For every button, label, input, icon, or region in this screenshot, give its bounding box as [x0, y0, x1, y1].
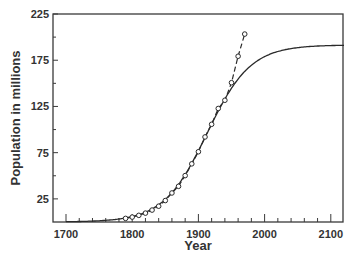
data-point-marker — [130, 215, 135, 220]
axis-ticks — [53, 14, 331, 222]
data-point-marker — [223, 98, 228, 103]
data-point-marker — [163, 198, 168, 203]
data-point-marker — [209, 122, 214, 127]
data-point-marker — [170, 191, 175, 196]
data-point-marker — [216, 106, 221, 111]
data-point-marker — [156, 204, 161, 209]
data-point-marker — [123, 216, 128, 221]
logistic-line — [66, 45, 344, 221]
data-point-marker — [196, 149, 201, 154]
y-tick-label: 25 — [37, 193, 49, 205]
data-point-marker — [183, 173, 188, 178]
x-tick-label: 1700 — [54, 228, 78, 240]
data-point-marker — [150, 208, 155, 213]
data-point-marker — [229, 80, 234, 85]
x-tick-label: 2000 — [252, 228, 276, 240]
y-tick-label: 175 — [31, 54, 49, 66]
tick-labels: 170018001900200021002575125175225 — [31, 8, 343, 240]
data-point-marker — [137, 213, 142, 218]
data-point-marker — [176, 184, 181, 189]
y-tick-label: 125 — [31, 100, 49, 112]
plot-border — [53, 14, 343, 222]
data-point-marker — [189, 162, 194, 167]
y-tick-label: 75 — [37, 147, 49, 159]
data-point-marker — [143, 211, 148, 216]
logistic-curve — [66, 45, 344, 221]
y-tick-label: 225 — [31, 8, 49, 20]
census-dashed-line — [126, 34, 245, 218]
data-point-marker — [203, 135, 208, 140]
x-tick-label: 1800 — [120, 228, 144, 240]
x-axis-title: Year — [184, 238, 211, 253]
x-tick-label: 2100 — [319, 228, 343, 240]
data-point-marker — [236, 54, 241, 59]
plot-frame — [53, 14, 343, 222]
population-chart: 170018001900200021002575125175225 Year P… — [0, 0, 354, 262]
y-axis-title: Population in millions — [8, 50, 23, 185]
census-data-series — [123, 32, 247, 221]
data-point-marker — [242, 32, 247, 37]
